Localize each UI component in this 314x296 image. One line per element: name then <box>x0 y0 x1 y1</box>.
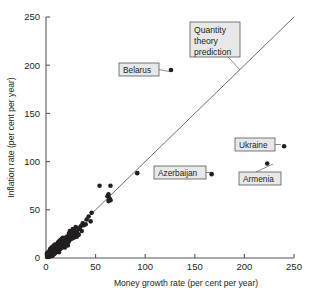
annotation-ukraine[interactable]: Ukraine <box>235 138 281 151</box>
x-axis-title: Money growth rate (per cent per year) <box>114 278 258 288</box>
axis-titles-group: Money growth rate (per cent per year)Inf… <box>6 77 258 288</box>
data-point <box>265 161 270 166</box>
y-tick-label-150: 150 <box>24 108 40 119</box>
data-point <box>282 144 287 149</box>
data-point <box>61 235 66 240</box>
data-point <box>169 68 174 73</box>
data-point <box>84 217 89 222</box>
leader-line-armenia <box>256 164 273 172</box>
leader-line-quantity-theory-prediction <box>228 57 240 70</box>
data-point <box>97 183 102 188</box>
data-point <box>54 250 59 255</box>
x-tick-label-200: 200 <box>236 261 252 272</box>
data-point <box>73 225 78 230</box>
x-tick-label-100: 100 <box>137 261 153 272</box>
y-tick-label-0: 0 <box>35 252 40 263</box>
data-point <box>45 251 50 256</box>
data-point <box>53 242 58 247</box>
callout-label-quantity-theory-prediction-line-1: Quantity <box>194 25 227 35</box>
callout-label-azerbaijan: Azerbaijan <box>158 168 198 178</box>
annotation-azerbaijan[interactable]: Azerbaijan <box>154 166 210 179</box>
x-tick-label-0: 0 <box>43 261 48 272</box>
x-tick-label-50: 50 <box>90 261 101 272</box>
data-point <box>108 183 113 188</box>
callout-label-quantity-theory-prediction-line-2: theory <box>194 36 219 46</box>
data-point <box>83 222 88 227</box>
callout-label-ukraine: Ukraine <box>239 140 268 150</box>
chart-figure: 050100150200250050100150200250 BelarusQu… <box>0 0 314 296</box>
data-point <box>105 194 110 199</box>
y-tick-label-50: 50 <box>29 204 40 215</box>
data-point <box>209 172 214 177</box>
y-axis-title: Inflation rate (per cent per year) <box>6 77 16 198</box>
data-point <box>88 219 93 224</box>
data-point <box>63 245 68 250</box>
data-point <box>106 199 111 204</box>
y-tick-label-200: 200 <box>24 60 40 71</box>
callout-label-belarus: Belarus <box>123 65 151 75</box>
annotation-belarus[interactable]: Belarus <box>119 63 169 76</box>
x-tick-label-150: 150 <box>187 261 203 272</box>
data-point <box>76 233 81 238</box>
callout-label-armenia: Armenia <box>243 174 274 184</box>
scatter-plot-canvas: 050100150200250050100150200250 BelarusQu… <box>0 0 314 296</box>
annotation-armenia[interactable]: Armenia <box>239 164 281 185</box>
annotation-quantity-theory-prediction[interactable]: Quantitytheoryprediction <box>190 22 240 70</box>
data-points-group <box>45 68 287 260</box>
y-tick-label-100: 100 <box>24 156 40 167</box>
y-tick-label-250: 250 <box>24 11 40 22</box>
data-point <box>69 236 74 241</box>
data-point <box>68 229 73 234</box>
x-tick-label-250: 250 <box>286 261 302 272</box>
data-point <box>79 229 84 234</box>
annotations-group: BelarusQuantitytheorypredictionAzerbaija… <box>119 22 281 185</box>
data-point <box>135 171 140 176</box>
leader-line-belarus <box>159 70 169 72</box>
data-point <box>89 210 94 215</box>
callout-label-quantity-theory-prediction-line-3: prediction <box>194 47 231 57</box>
